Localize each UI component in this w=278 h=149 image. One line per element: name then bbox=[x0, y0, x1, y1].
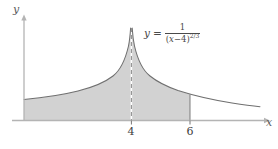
equation-equals-sign: = bbox=[153, 28, 162, 39]
equation-denominator-exponent: 2/3 bbox=[190, 32, 200, 39]
equation-numerator: 1 bbox=[177, 23, 188, 33]
plot-area bbox=[0, 0, 278, 149]
y-axis-arrowhead bbox=[21, 15, 26, 21]
figure-container: y x 4 6 y = 1 (x−4)2/3 bbox=[0, 0, 278, 149]
x-axis-label: x bbox=[266, 117, 272, 128]
equation-denominator-minus-four: −4 bbox=[174, 34, 187, 44]
equation-annotation: y = 1 (x−4)2/3 bbox=[144, 23, 200, 43]
x-tick-label-4: 4 bbox=[123, 126, 139, 137]
equation-lhs: y bbox=[144, 28, 150, 39]
equation-fraction: 1 (x−4)2/3 bbox=[165, 23, 201, 43]
equation-denominator: (x−4)2/3 bbox=[165, 34, 201, 44]
y-axis-label: y bbox=[13, 4, 19, 15]
x-tick-label-6: 6 bbox=[182, 126, 198, 137]
